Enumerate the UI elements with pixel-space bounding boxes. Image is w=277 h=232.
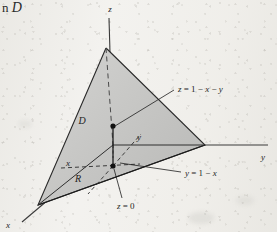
annotation-top-surface: z = 1 − x − y: [177, 84, 223, 94]
upper-point-marker: [110, 123, 115, 128]
lower-point-marker: [110, 163, 115, 168]
z-axis-label: z: [107, 4, 112, 14]
annotation-slant-boundary: y = 1 − x: [184, 168, 217, 178]
base-region-label-R: R: [74, 173, 81, 184]
annotation-bottom-surface: z = 0: [116, 201, 135, 211]
tetrahedron-figure: z y x D R x y z = 1 − x − y y = 1 − x z …: [0, 0, 277, 232]
solid-region-label-D: D: [77, 115, 86, 126]
top-plane-face: [38, 48, 205, 205]
y-axis-label: y: [260, 152, 265, 162]
coordinate-label-x: x: [65, 158, 70, 168]
figure-page: nD: [0, 0, 277, 232]
coordinate-label-y: y: [136, 132, 141, 142]
x-axis-label: x: [5, 220, 10, 230]
